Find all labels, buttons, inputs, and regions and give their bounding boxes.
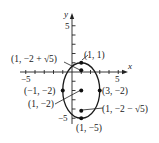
y-tick-label-5: 5 — [65, 21, 70, 31]
y-axis-arrow-icon — [70, 13, 74, 19]
x-tick-label-neg5: −5 — [21, 74, 31, 84]
point-left-covertex — [61, 89, 65, 93]
label-lower-focus: (1, −2 − √5) — [102, 104, 148, 115]
point-bottom-vertex — [79, 116, 83, 120]
label-right-covertex: (3, −2) — [102, 86, 128, 97]
point-lower-focus — [79, 109, 83, 113]
point-center — [79, 89, 83, 93]
label-left-covertex: (−1, −2) — [24, 86, 55, 97]
point-upper-focus — [79, 68, 83, 72]
x-axis-label: x — [127, 61, 132, 71]
leader-center — [55, 91, 80, 105]
x-axis — [20, 70, 128, 74]
ellipse-diagram: x y −5 5 5 −5 (1, 1) (1, −2 + √5) (−1, −… — [0, 0, 159, 143]
points — [61, 61, 102, 121]
y-tick-label-neg5: −5 — [58, 113, 68, 123]
label-bottom-vertex: (1, −5) — [76, 123, 102, 134]
label-upper-focus: (1, −2 + √5) — [11, 54, 57, 65]
label-top-vertex: (1, 1) — [84, 50, 105, 61]
y-axis-label: y — [63, 9, 68, 19]
label-center: (1, −2) — [28, 99, 54, 110]
leader-lower-focus — [82, 108, 103, 110]
x-tick-label-5: 5 — [115, 74, 120, 84]
point-top-vertex — [79, 61, 83, 65]
